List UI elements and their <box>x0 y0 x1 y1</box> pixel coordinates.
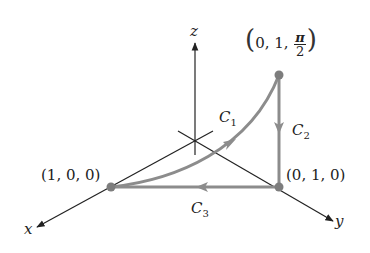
curve-label-c3: C3 <box>191 199 209 219</box>
z-axis-label: z <box>190 22 198 40</box>
curve-label-c2: C2 <box>292 121 310 141</box>
point-1-0-0 <box>107 183 116 192</box>
point-label-1-0-0: (1, 0, 0) <box>41 166 100 184</box>
point-label-0-1-pi2: (0, 1, π2) <box>245 24 317 58</box>
curve-label-c1: C1 <box>219 108 237 128</box>
y-axis-label: y <box>335 212 343 230</box>
diagram-canvas: z x y (1, 0, 0) (0, 1, 0) (0, 1, π2) C1 … <box>0 0 370 253</box>
point-0-1-0 <box>275 183 284 192</box>
point-label-0-1-0: (0, 1, 0) <box>286 166 345 184</box>
point-0-1-pi2 <box>275 71 284 80</box>
fraction-pi-over-2: π2 <box>294 31 306 58</box>
x-axis-label: x <box>24 220 32 238</box>
